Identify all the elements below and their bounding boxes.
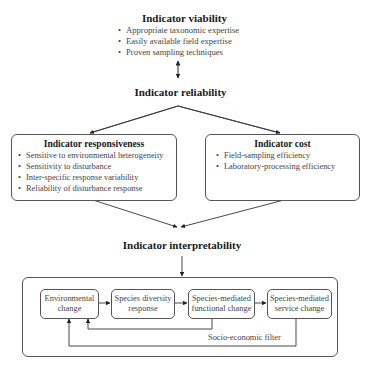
responsiveness-item: Sensitive to environmental heterogeneity bbox=[18, 150, 176, 161]
node-environmental-change: Environmentalchange bbox=[40, 289, 99, 319]
viability-item: Appropriate taxonomic expertise bbox=[118, 25, 239, 36]
responsiveness-box: Indicator responsiveness Sensitive to en… bbox=[11, 134, 177, 201]
responsiveness-list: Sensitive to environmental heterogeneity… bbox=[12, 150, 176, 194]
responsiveness-title: Indicator responsiveness bbox=[12, 138, 176, 149]
responsiveness-item: Sensitivity to disturbance bbox=[18, 161, 176, 172]
node-functional-change: Species-mediatedfunctional change bbox=[188, 289, 255, 319]
responsiveness-item: Inter-specific response variability bbox=[18, 172, 176, 183]
reliability-responsiveness-arrow bbox=[90, 106, 178, 133]
responsiveness-interpretability-arrow bbox=[93, 200, 177, 227]
viability-item: Proven sampling techniques bbox=[118, 47, 239, 58]
interpretability-heading: Indicator interpretability bbox=[0, 239, 364, 251]
cost-item: Laboratory-processing efficiency bbox=[216, 161, 359, 172]
cost-interpretability-arrow bbox=[181, 200, 284, 227]
socioeconomic-filter-label: Socio-economic filter bbox=[208, 333, 281, 342]
node-service-change: Species-mediatedservice change bbox=[267, 289, 332, 319]
reliability-cost-arrow bbox=[178, 106, 280, 133]
reliability-heading: Indicator reliability bbox=[0, 86, 361, 98]
cost-item: Field-sampling efficiency bbox=[216, 150, 359, 161]
viability-item: Easily available field expertise bbox=[118, 36, 239, 47]
responsiveness-item: Reliability of disturbance response bbox=[18, 183, 176, 194]
viability-list: Appropriate taxonomic expertise Easily a… bbox=[118, 25, 239, 59]
cost-list: Field-sampling efficiency Laboratory-pro… bbox=[206, 150, 359, 172]
cost-title: Indicator cost bbox=[206, 138, 359, 149]
viability-heading: Indicator viability bbox=[0, 12, 369, 24]
cost-box: Indicator cost Field-sampling efficiency… bbox=[205, 134, 360, 201]
node-species-diversity-response: Species diversityresponse bbox=[111, 289, 175, 319]
